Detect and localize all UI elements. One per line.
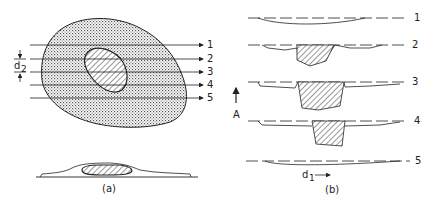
axis-label-a: A xyxy=(233,109,240,120)
panel-a-cross-section: (a) xyxy=(36,163,198,194)
scan-label-3: 3 xyxy=(207,66,213,77)
distance-label: d xyxy=(302,169,308,180)
profile-label-5: 5 xyxy=(415,155,421,166)
profile-label-3: 3 xyxy=(412,76,418,87)
panel-b-caption: (b) xyxy=(325,184,339,195)
scan-label-4: 4 xyxy=(207,79,213,90)
scan-label-2: 2 xyxy=(207,53,213,64)
panel-b-profiles xyxy=(246,18,410,165)
panel-a-top-view: 1 2 3 4 5 d 2 xyxy=(14,18,213,127)
figure: 1 2 3 4 5 d 2 (a) xyxy=(0,0,438,203)
spacing-subscript: 2 xyxy=(21,64,27,74)
profile-label-2: 2 xyxy=(412,39,418,50)
panel-a-caption: (a) xyxy=(102,183,116,194)
scan-label-5: 5 xyxy=(207,92,213,103)
spacing-label: d xyxy=(14,60,20,71)
profile-label-4: 4 xyxy=(414,115,420,126)
profile-label-1: 1 xyxy=(414,12,420,23)
scan-label-1: 1 xyxy=(207,39,213,50)
diagram-canvas: 1 2 3 4 5 d 2 (a) xyxy=(0,0,438,203)
distance-subscript: 1 xyxy=(309,173,315,183)
